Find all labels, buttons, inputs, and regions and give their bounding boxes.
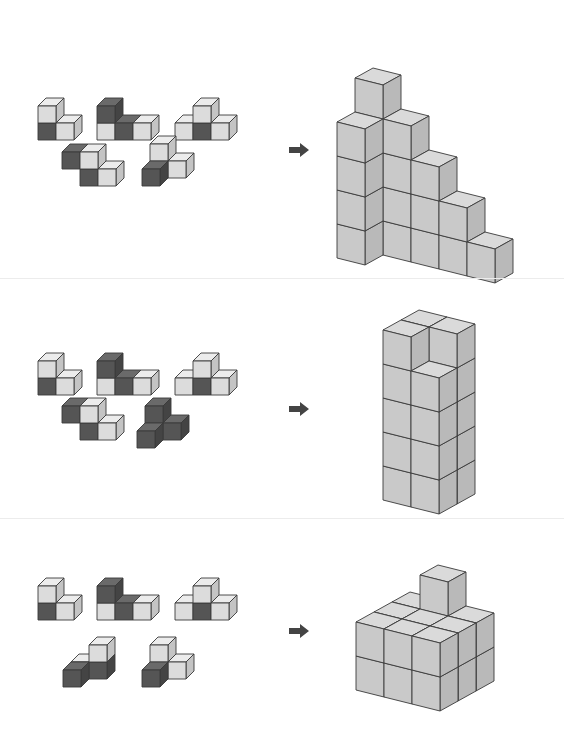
cube-group [356,565,494,711]
assembled-structure [0,0,564,737]
